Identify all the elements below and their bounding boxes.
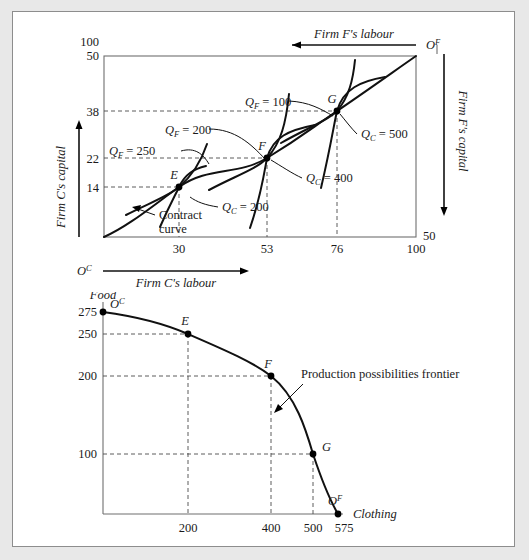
firm-f-capital-label: Firm F's capital bbox=[456, 89, 470, 172]
top-axis-arrow-group: Firm F's labour OF bbox=[292, 27, 441, 52]
corner-right-50: 50 bbox=[423, 229, 436, 243]
point-e-label: E bbox=[169, 168, 178, 182]
point-e-marker bbox=[176, 184, 183, 191]
isoquant-label-qc400: QC = 400 bbox=[306, 171, 353, 187]
point-g-label: G bbox=[327, 92, 336, 106]
isoquant-label-qf200: QF = 200 bbox=[165, 123, 211, 139]
firm-f-labour-label: Firm F's labour bbox=[313, 27, 394, 41]
firm-c-labour-arrow-head bbox=[240, 268, 249, 275]
ppf-x-tick-200: 200 bbox=[179, 521, 198, 535]
isoquant-label-qc200: QC = 200 bbox=[222, 200, 269, 216]
ppf-annotation-label: Production possibilities frontier bbox=[301, 367, 460, 381]
firm-c-labour-label: Firm C's labour bbox=[135, 276, 217, 290]
y-tick-22: 22 bbox=[87, 152, 100, 166]
ppf-point-of-marker bbox=[335, 511, 342, 518]
point-f-label: F bbox=[257, 139, 266, 153]
firm-c-capital-arrow-head bbox=[76, 120, 83, 129]
leader-qc500 bbox=[340, 114, 357, 134]
x-tick-100: 100 bbox=[407, 242, 426, 256]
point-g-marker bbox=[334, 108, 341, 115]
y-tick-38: 38 bbox=[87, 105, 100, 119]
firm-f-capital-arrow-head bbox=[441, 207, 448, 216]
ppf-chart: Food Clothing 275 250 200 100 200 400 50… bbox=[13, 292, 514, 546]
right-axis-arrow-group: Firm F's capital bbox=[437, 45, 470, 216]
ppf-dashed-guides bbox=[103, 334, 313, 514]
isoquant-label-qf250: QF = 250 bbox=[109, 144, 155, 160]
edgeworth-box-chart: Firm F's labour OF Firm F's capital Firm… bbox=[13, 12, 514, 292]
leader-qc200 bbox=[190, 197, 218, 207]
ppf-y-tick-200: 200 bbox=[78, 369, 97, 383]
ppf-x-axis-label: Clothing bbox=[353, 507, 397, 521]
ppf-y-tick-100: 100 bbox=[78, 447, 97, 461]
figure-panel: Firm F's labour OF Firm F's capital Firm… bbox=[12, 11, 515, 547]
left-axis-arrow-group: Firm C's capital bbox=[54, 120, 83, 237]
contract-curve-label-line1: Contract bbox=[159, 208, 203, 222]
ppf-point-e-marker bbox=[185, 331, 192, 338]
x-tick-76: 76 bbox=[331, 242, 344, 256]
ppf-curve-path bbox=[103, 312, 338, 514]
y-tick-outer-100: 100 bbox=[80, 35, 99, 49]
ppf-point-g: G bbox=[310, 440, 331, 457]
bottom-axis-arrow-group: OC Firm C's labour bbox=[77, 263, 249, 290]
y-tick-50: 50 bbox=[87, 49, 100, 63]
ppf-x-tick-400: 400 bbox=[262, 521, 281, 535]
contract-curve-annotation: Contract curve bbox=[132, 205, 203, 236]
firm-f-labour-arrow-head bbox=[292, 42, 301, 49]
leader-qf100 bbox=[289, 101, 333, 116]
equilibrium-point-e: E bbox=[169, 168, 182, 190]
leader-qc400 bbox=[271, 160, 302, 178]
ppf-x-tick-500: 500 bbox=[304, 521, 323, 535]
ppf-point-g-label: G bbox=[322, 440, 331, 454]
x-tick-53: 53 bbox=[261, 242, 274, 256]
point-f-marker bbox=[264, 155, 271, 162]
origin-f-top-label: OF bbox=[426, 37, 441, 52]
y-tick-14: 14 bbox=[87, 181, 100, 195]
x-tick-30: 30 bbox=[173, 242, 186, 256]
origin-c-bottom-label: OC bbox=[77, 263, 92, 278]
ppf-point-of-label: OF bbox=[328, 493, 343, 508]
ppf-point-f-marker bbox=[268, 373, 275, 380]
ppf-point-oc-marker bbox=[100, 309, 107, 316]
ppf-point-f-label: F bbox=[263, 357, 272, 371]
ppf-point-oc-label: OC bbox=[110, 296, 125, 311]
isoquant-label-qf100: QF = 100 bbox=[245, 95, 291, 111]
ppf-x-tick-575: 575 bbox=[335, 521, 354, 535]
firm-c-capital-label: Firm C's capital bbox=[54, 146, 68, 229]
leader-qf200 bbox=[209, 129, 265, 159]
ppf-annotation-group: Production possibilities frontier bbox=[274, 367, 460, 413]
ppf-point-g-marker bbox=[310, 451, 317, 458]
ppf-y-tick-250: 250 bbox=[78, 327, 97, 341]
contract-curve-label-line2: curve bbox=[159, 222, 187, 236]
isoquant-label-qc500: QC = 500 bbox=[361, 127, 408, 143]
ppf-point-e-label: E bbox=[180, 314, 189, 328]
ppf-y-tick-275: 275 bbox=[78, 305, 97, 319]
